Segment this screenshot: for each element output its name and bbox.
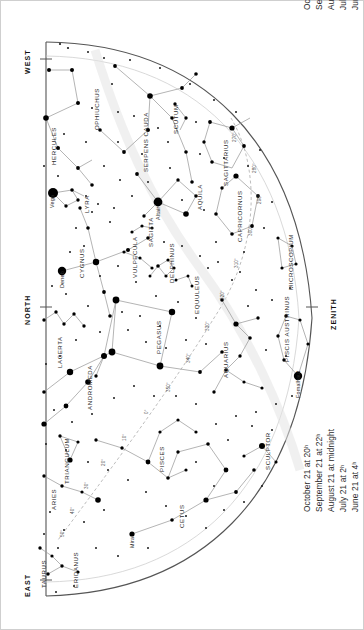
constellation-label-andromeda: ANDROMEDA <box>86 365 93 410</box>
cardinal-north: NORTH <box>24 295 31 325</box>
constellation-label-equuleus: EQUULEUS <box>193 276 200 314</box>
constellation-label-ophiuchus: OPHIUCHUS <box>93 88 100 130</box>
constellation-label-lacerta: LACERTA <box>56 336 63 368</box>
star-label-fomalhaut: Fomalhaut <box>295 371 301 398</box>
constellation-label-scutum: SCUTUM <box>172 104 179 134</box>
constellation-label-hercules: HERCULES <box>50 127 57 165</box>
star-label-altair: Altair <box>155 207 161 220</box>
constellation-label-pisces: PISCES <box>158 446 165 472</box>
star-label-deneb: Deneb <box>59 271 65 288</box>
constellation-label-sagitta: SAGITTA <box>147 217 154 247</box>
constellation-label-eridanus: ERIDANUS <box>72 552 79 588</box>
constellation-label-capricornus: CAPRICORNUS <box>236 190 243 242</box>
constellation-label-lyra: LYRA <box>83 195 90 213</box>
constellation-label-sculptor: SCULPTOR <box>264 432 271 470</box>
constellation-label-aquarius: AQUARIUS <box>222 341 229 378</box>
star-label-vega: Vega <box>49 195 55 208</box>
constellation-label-serpens-cauda: SERPENS CAUDA <box>142 112 149 172</box>
star-label-mira: Mira <box>129 537 135 548</box>
constellation-label-delphinus: DELPHINUS <box>168 243 175 283</box>
constellation-label-microscopium: MICROSCOPIUM <box>287 234 294 290</box>
constellation-label-triangulum: TRIANGULUM <box>63 438 70 484</box>
cardinal-zenith: ZENITH <box>330 298 337 330</box>
cardinal-east: EAST <box>24 574 31 597</box>
constellation-label-piscis-austrinus: PISCIS AUSTRINUS <box>283 296 290 362</box>
star-chart: WEST NORTH EAST ZENITH June 6 at 5ʰ July… <box>0 0 364 630</box>
constellation-label-aries: ARIES <box>50 489 57 510</box>
page-border <box>1 1 364 630</box>
constellation-label-cygnus: CYGNUS <box>78 248 85 278</box>
sky-dome-svg <box>0 0 364 630</box>
constellation-label-cetus: CETUS <box>178 504 185 528</box>
constellation-label-aquila: AQUILA <box>196 184 203 210</box>
constellation-label-vulpecula: VULPECULA <box>131 236 138 278</box>
cardinal-west: WEST <box>24 49 31 74</box>
constellation-label-taurus: TAURUS <box>40 560 47 588</box>
constellation-label-sagittarius: SAGITTARIUS <box>222 139 229 186</box>
constellation-label-pegasus: PEGASUS <box>155 320 162 354</box>
